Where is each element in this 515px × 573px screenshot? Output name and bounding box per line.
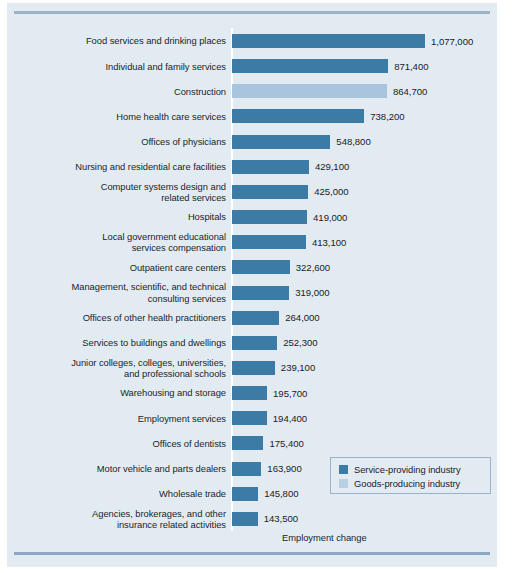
legend-swatch-service-icon [339,465,348,474]
category-label-wrap: Hospitals [11,204,226,230]
category-label-wrap: Local government educational services co… [11,229,226,255]
bar-service [232,411,267,425]
category-label: Motor vehicle and parts dealers [11,463,226,474]
category-label: Warehousing and storage [11,387,226,398]
category-label-wrap: Warehousing and storage [11,380,226,406]
category-label: Hospitals [11,211,226,222]
category-label-wrap: Offices of physicians [11,129,226,155]
bar-service [232,235,306,249]
category-label-wrap: Wholesale trade [11,481,226,507]
chart-row: Offices of dentists175,400 [0,430,515,456]
category-label: Employment services [11,413,226,424]
bar-service [232,487,258,501]
bar-service [232,109,364,123]
chart-row: Employment services194,400 [0,405,515,431]
category-label: Computer systems design and related serv… [11,181,226,203]
legend-label-service: Service-providing industry [354,464,461,475]
chart-row: Computer systems design and related serv… [0,179,515,205]
bar-service [232,286,289,300]
chart-row: Hospitals419,000 [0,204,515,230]
bar-value-label: 195,700 [273,380,307,406]
category-label-wrap: Agencies, brokerages, and other insuranc… [11,506,226,532]
chart-legend: Service-providing industry Goods-produci… [330,457,491,494]
bar-value-label: 1,077,000 [431,28,473,54]
category-label: Services to buildings and dwellings [11,337,226,348]
category-label: Offices of other health practitioners [11,312,226,323]
chart-row: Home health care services738,200 [0,103,515,129]
bar-service [232,462,261,476]
category-label-wrap: Management, scientific, and technical co… [11,280,226,306]
category-label-wrap: Home health care services [11,103,226,129]
bar-goods [232,84,387,98]
chart-row: Services to buildings and dwellings252,3… [0,330,515,356]
bar-service [232,160,309,174]
chart-row: Local government educational services co… [0,229,515,255]
category-label-wrap: Employment services [11,405,226,431]
chart-row: Agencies, brokerages, and other insuranc… [0,506,515,532]
category-label: Wholesale trade [11,488,226,499]
bar-value-label: 145,800 [264,481,298,507]
legend-swatch-goods-icon [339,479,348,488]
bar-value-label: 252,300 [283,330,317,356]
chart-row: Offices of other health practitioners264… [0,305,515,331]
bar-value-label: 738,200 [370,103,404,129]
category-label: Local government educational services co… [11,231,226,253]
bar-value-label: 425,000 [314,179,348,205]
category-label-wrap: Food services and drinking places [11,28,226,54]
bar-value-label: 322,600 [296,254,330,280]
bar-value-label: 429,100 [315,154,349,180]
bar-value-label: 239,100 [281,355,315,381]
bar-service [232,34,425,48]
category-label: Offices of physicians [11,136,226,147]
category-label-wrap: Offices of dentists [11,430,226,456]
chart-row: Food services and drinking places1,077,0… [0,28,515,54]
category-label-wrap: Junior colleges, colleges, universities,… [11,355,226,381]
category-label: Construction [11,86,226,97]
category-label-wrap: Services to buildings and dwellings [11,330,226,356]
category-label: Food services and drinking places [11,35,226,46]
bar-value-label: 419,000 [313,204,347,230]
category-label: Offices of dentists [11,438,226,449]
category-label: Agencies, brokerages, and other insuranc… [11,508,226,530]
chart-row: Junior colleges, colleges, universities,… [0,355,515,381]
category-label-wrap: Construction [11,78,226,104]
bar-value-label: 175,400 [269,430,303,456]
category-label-wrap: Outpatient care centers [11,254,226,280]
category-label: Individual and family services [11,61,226,72]
category-label: Home health care services [11,111,226,122]
bar-service [232,185,308,199]
bar-value-label: 163,900 [267,456,301,482]
chart-row: Nursing and residential care facilities4… [0,154,515,180]
category-label-wrap: Motor vehicle and parts dealers [11,456,226,482]
category-label: Junior colleges, colleges, universities,… [11,357,226,379]
category-label: Nursing and residential care facilities [11,161,226,172]
chart-row: Management, scientific, and technical co… [0,280,515,306]
employment-change-bar-chart: Food services and drinking places1,077,0… [0,0,515,573]
bar-value-label: 194,400 [273,405,307,431]
category-label-wrap: Nursing and residential care facilities [11,154,226,180]
chart-row: Construction864,700 [0,78,515,104]
chart-row: Individual and family services871,400 [0,53,515,79]
bar-service [232,59,388,73]
category-label: Outpatient care centers [11,262,226,273]
bar-value-label: 319,000 [295,280,329,306]
category-label-wrap: Offices of other health practitioners [11,305,226,331]
category-label: Management, scientific, and technical co… [11,281,226,303]
bar-service [232,210,307,224]
chart-row: Warehousing and storage195,700 [0,380,515,406]
bar-service [232,135,330,149]
chart-row: Offices of physicians548,800 [0,129,515,155]
category-label-wrap: Individual and family services [11,53,226,79]
bar-service [232,336,277,350]
legend-item-service: Service-providing industry [339,463,490,476]
bar-service [232,361,275,375]
bar-value-label: 864,700 [393,78,427,104]
bar-service [232,512,258,526]
bar-value-label: 143,500 [264,506,298,532]
bar-value-label: 413,100 [312,229,346,255]
bar-service [232,311,279,325]
category-label-wrap: Computer systems design and related serv… [11,179,226,205]
legend-label-goods: Goods-producing industry [354,478,460,489]
bar-value-label: 871,400 [394,53,428,79]
bar-service [232,260,290,274]
